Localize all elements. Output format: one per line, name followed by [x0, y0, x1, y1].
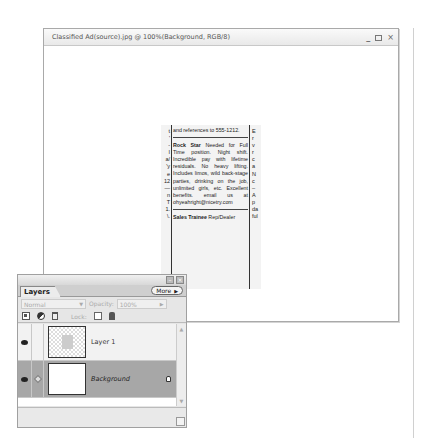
minimize-icon[interactable]: _ — [366, 29, 370, 46]
blend-row: Normal▼ Opacity: 100%▶ — [18, 297, 186, 310]
panel-window-buttons: – × — [166, 276, 184, 284]
lock-all-icon[interactable] — [109, 312, 115, 320]
link-cell[interactable] — [32, 361, 44, 397]
main-column: and references to 555-1212. Rock Star Ne… — [173, 127, 248, 221]
panel-minimize-icon[interactable]: – — [166, 276, 174, 284]
layer-name: Layer 1 — [91, 338, 177, 346]
eye-icon — [21, 377, 28, 382]
panel-drag-bar[interactable]: – × — [18, 275, 186, 285]
layers-panel: – × Layers More▶ Normal▼ Opacity: 100%▶ … — [17, 274, 187, 428]
divider — [173, 137, 248, 138]
panel-footer — [18, 407, 186, 427]
window-controls: _ × — [366, 29, 394, 46]
document-title: Classified Ad(source).jpg @ 100%(Backgro… — [52, 33, 230, 41]
layer-thumbnail — [48, 363, 86, 395]
layer-list-scrollbar[interactable]: ▲ ▼ — [176, 324, 186, 406]
arrow-right-icon: ▶ — [174, 288, 178, 294]
link-cell[interactable] — [32, 324, 44, 360]
top-line: and references to 555-1212. — [173, 127, 248, 134]
brush-icon — [33, 375, 41, 383]
layer-thumbnail — [48, 326, 86, 358]
panel-tabbar: Layers More▶ — [18, 285, 186, 297]
layer-list: Layer 1 Background — [18, 324, 177, 406]
layer-tools-row: Lock: — [18, 310, 186, 323]
layer-name: Background — [91, 375, 166, 383]
more-button[interactable]: More▶ — [151, 286, 183, 295]
scroll-down-icon[interactable]: ▼ — [177, 398, 186, 404]
maximize-icon[interactable] — [375, 35, 382, 41]
column-rule — [249, 125, 250, 289]
scroll-up-icon[interactable]: ▲ — [177, 326, 186, 332]
close-icon[interactable]: × — [387, 29, 394, 46]
layer-row-layer-1[interactable]: Layer 1 — [18, 324, 177, 361]
opacity-label: Opacity: — [89, 300, 114, 307]
eye-icon — [21, 340, 28, 345]
lock-icon — [166, 376, 171, 382]
left-column-fragment: t'-Ia/'ye12—nT1.\. — [161, 125, 171, 289]
document-titlebar[interactable]: Classified Ad(source).jpg @ 100%(Backgro… — [44, 29, 398, 46]
chevron-down-icon: ▼ — [79, 300, 83, 309]
column-rule — [171, 125, 172, 289]
resize-grip-icon[interactable] — [176, 417, 185, 426]
blend-mode-select[interactable]: Normal▼ — [21, 299, 86, 309]
ad-rock-star: Rock Star Needed for Full Time position.… — [173, 142, 248, 206]
opacity-input[interactable]: 100%▶ — [117, 299, 167, 309]
right-column-fragment: ErvrcaNc–Apdaful — [252, 128, 261, 220]
tab-layers[interactable]: Layers — [20, 286, 61, 297]
trash-icon[interactable] — [52, 312, 58, 320]
lock-transparent-icon[interactable] — [94, 312, 102, 320]
layer-row-background[interactable]: Background — [18, 361, 177, 398]
visibility-toggle[interactable] — [18, 324, 32, 360]
adjustment-layer-icon[interactable] — [37, 312, 45, 320]
ad-sales-trainee: Sales Trainee Rep/Dealer — [173, 214, 248, 221]
classified-ad-image: t'-Ia/'ye12—nT1.\. and references to 555… — [161, 125, 261, 289]
side-divider — [413, 28, 414, 438]
visibility-toggle[interactable] — [18, 361, 32, 397]
chevron-right-icon: ▶ — [160, 300, 164, 309]
new-layer-icon[interactable] — [22, 312, 30, 320]
divider — [173, 209, 248, 210]
lock-label: Lock: — [71, 313, 87, 320]
panel-close-icon[interactable]: × — [176, 276, 184, 284]
